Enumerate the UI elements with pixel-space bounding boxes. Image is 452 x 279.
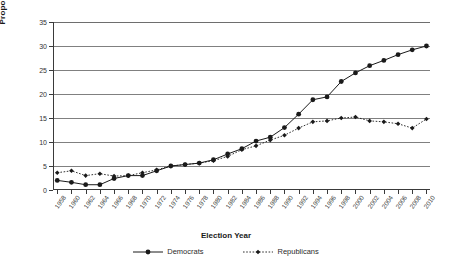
plot-area bbox=[53, 22, 430, 190]
y-tick-label: 30 bbox=[39, 43, 47, 50]
x-tick-label: 1978 bbox=[195, 194, 209, 210]
x-tick-label: 1968 bbox=[124, 194, 138, 210]
x-tick-label: 2000 bbox=[352, 194, 366, 210]
y-tick-label: 15 bbox=[39, 115, 47, 122]
x-tick-label: 1982 bbox=[224, 194, 238, 210]
y-tick-label: 5 bbox=[43, 163, 47, 170]
legend-marker-diamond-icon bbox=[243, 248, 273, 256]
gridline bbox=[54, 22, 430, 23]
x-tick-label: 1984 bbox=[238, 194, 252, 210]
y-tick-label: 20 bbox=[39, 91, 47, 98]
x-axis-labels: 1958196019621964196619681970197219741976… bbox=[0, 192, 452, 232]
x-tick-label: 1970 bbox=[139, 194, 153, 210]
x-tick-label: 1988 bbox=[266, 194, 280, 210]
gridline bbox=[54, 70, 430, 71]
x-tick-label: 2004 bbox=[380, 194, 394, 210]
x-tick-label: 1980 bbox=[210, 194, 224, 210]
x-tick-label: 1960 bbox=[68, 194, 82, 210]
x-tick-label: 1994 bbox=[309, 194, 323, 210]
y-axis-labels: 05101520253035 bbox=[0, 0, 53, 190]
legend-label: Republicans bbox=[277, 248, 318, 256]
x-tick-label: 1958 bbox=[53, 194, 67, 210]
y-tick-label: 10 bbox=[39, 139, 47, 146]
legend-marker-circle-icon bbox=[133, 248, 163, 256]
gridline bbox=[54, 94, 430, 95]
x-axis-title: Election Year bbox=[0, 231, 452, 240]
x-tick-label: 2010 bbox=[423, 194, 437, 210]
x-tick-label: 2006 bbox=[394, 194, 408, 210]
x-tick-label: 1992 bbox=[295, 194, 309, 210]
legend-item-republicans[interactable]: Republicans bbox=[243, 248, 318, 256]
x-tick-label: 1990 bbox=[281, 194, 295, 210]
x-tick-label: 1974 bbox=[167, 194, 181, 210]
x-tick-label: 1972 bbox=[153, 194, 167, 210]
gridline bbox=[54, 46, 430, 47]
gridline bbox=[54, 142, 430, 143]
chart-container: Proportion 05101520253035 19581960196219… bbox=[0, 0, 452, 279]
gridline bbox=[54, 118, 430, 119]
x-tick-label: 1986 bbox=[252, 194, 266, 210]
x-tick-label: 1998 bbox=[337, 194, 351, 210]
legend-item-democrats[interactable]: Democrats bbox=[133, 248, 203, 256]
x-tick-label: 1962 bbox=[82, 194, 96, 210]
gridline bbox=[54, 166, 430, 167]
legend-label: Democrats bbox=[167, 248, 203, 256]
x-tick-label: 1964 bbox=[96, 194, 110, 210]
chart-legend: DemocratsRepublicans bbox=[0, 248, 452, 256]
x-tick-label: 2002 bbox=[366, 194, 380, 210]
x-tick-label: 1966 bbox=[110, 194, 124, 210]
y-tick-label: 35 bbox=[39, 19, 47, 26]
x-tick-label: 2008 bbox=[408, 194, 422, 210]
x-tick-label: 1976 bbox=[181, 194, 195, 210]
x-tick-label: 1996 bbox=[323, 194, 337, 210]
y-tick-label: 25 bbox=[39, 67, 47, 74]
